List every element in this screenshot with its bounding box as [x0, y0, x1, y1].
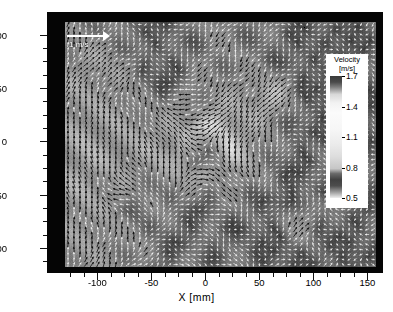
y-tick-minor: [43, 128, 47, 129]
x-tick-minor: [340, 273, 341, 277]
scale-reference-label: 1 m/s: [69, 40, 89, 49]
colorbar-tick: [342, 168, 345, 169]
x-axis-title: X [mm]: [0, 291, 393, 303]
colorbar-tick-label: 1.1: [346, 132, 358, 142]
x-tick-label: 0: [185, 277, 225, 288]
colorbar-tick: [342, 76, 345, 77]
x-tick-minor: [232, 273, 233, 277]
colorbar-gradient: [330, 76, 342, 198]
y-tick-minor: [43, 75, 47, 76]
colorbar-tick: [342, 198, 345, 199]
y-tick-minor: [43, 221, 47, 222]
x-tick-label: 100: [293, 277, 333, 288]
legend-body: 1.71.41.10.80.5: [327, 74, 367, 202]
colorbar-tick-label: 1.7: [346, 71, 358, 81]
colorbar-tick: [342, 137, 345, 138]
y-tick-minor: [43, 115, 47, 116]
y-tick-label: -100: [0, 242, 7, 253]
colorbar-tick: [342, 107, 345, 108]
y-tick: [40, 195, 47, 196]
velocity-colorbar-legend: Velocity [m/s] 1.71.41.10.80.5: [326, 54, 368, 208]
colorbar-tick-label: 0.5: [346, 193, 358, 203]
y-tick-label: -50: [0, 189, 7, 200]
x-tick-minor: [178, 273, 179, 277]
x-tick-label: 50: [239, 277, 279, 288]
y-tick-label: 0: [0, 136, 7, 147]
y-tick-label: 50: [0, 83, 7, 94]
y-tick-minor: [43, 48, 47, 49]
y-tick-minor: [43, 235, 47, 236]
x-tick-label: -50: [131, 277, 171, 288]
x-tick-minor: [286, 273, 287, 277]
arrow-shaft: [67, 35, 105, 37]
arrow-head-icon: [103, 31, 110, 41]
y-tick-minor: [43, 155, 47, 156]
y-tick: [40, 88, 47, 89]
x-tick-label: -100: [77, 277, 117, 288]
y-tick-minor: [43, 261, 47, 262]
y-tick-label: 100: [0, 29, 7, 40]
x-tick-label: 150: [347, 277, 387, 288]
piv-velocity-figure: 1 m/s Velocity [m/s] 1.71.41.10.80.5 100…: [0, 0, 393, 312]
y-tick: [40, 141, 47, 142]
y-tick-minor: [43, 61, 47, 62]
colorbar-tick-label: 1.4: [346, 102, 358, 112]
x-tick-minor: [70, 273, 71, 277]
plot-frame: 1 m/s Velocity [m/s] 1.71.41.10.80.5: [47, 12, 383, 273]
colorbar-tick-label: 0.8: [346, 163, 358, 173]
y-tick: [40, 248, 47, 249]
y-tick-minor: [43, 168, 47, 169]
y-tick-minor: [43, 208, 47, 209]
y-tick: [40, 35, 47, 36]
x-tick-minor: [124, 273, 125, 277]
y-tick-minor: [43, 101, 47, 102]
y-tick-minor: [43, 181, 47, 182]
